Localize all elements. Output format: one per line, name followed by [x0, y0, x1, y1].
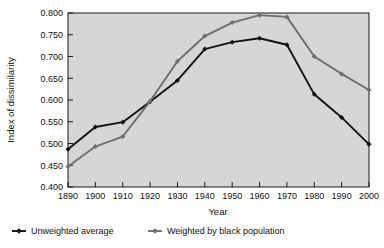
y-tick-label: 0.800 [40, 8, 63, 18]
y-tick-label: 0.450 [40, 161, 63, 171]
x-tick-label: 1980 [304, 191, 324, 201]
y-axis-title: Index of dissimilarity [5, 57, 16, 143]
x-tick-label: 1890 [58, 191, 78, 201]
legend-item-label: Weighted by black population [167, 226, 284, 236]
x-tick-label: 1970 [277, 191, 297, 201]
x-tick-label: 1900 [85, 191, 105, 201]
y-tick-label: 0.650 [40, 74, 63, 84]
x-tick-label: 1990 [332, 191, 352, 201]
x-tick-label: 2000 [359, 191, 379, 201]
y-tick-label: 0.750 [40, 30, 63, 40]
x-axis-title: Year [208, 206, 227, 217]
y-tick-label: 0.500 [40, 139, 63, 149]
y-tick-label: 0.700 [40, 52, 63, 62]
x-tick-label: 1910 [113, 191, 133, 201]
x-tick-label: 1940 [195, 191, 215, 201]
y-tick-label: 0.550 [40, 117, 63, 127]
legend-item[interactable]: Weighted by black population [148, 226, 284, 236]
x-tick-label: 1920 [140, 191, 160, 201]
x-tick-label: 1960 [250, 191, 270, 201]
plot-area-background [68, 13, 369, 187]
x-tick-label: 1950 [222, 191, 242, 201]
legend-item-label: Unweighted average [31, 226, 114, 236]
y-tick-label: 0.600 [40, 95, 63, 105]
x-tick-label: 1930 [167, 191, 187, 201]
chart-figure: 0.4000.4500.5000.5500.6000.6500.7000.750… [0, 0, 384, 248]
